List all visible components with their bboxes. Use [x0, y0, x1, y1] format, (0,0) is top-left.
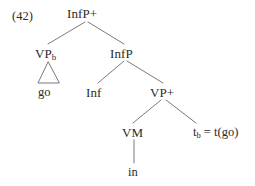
edge-vpplus-trace	[166, 100, 196, 123]
edge-infpplus-vpb	[48, 22, 85, 44]
edge-infp-vpplus	[127, 61, 163, 83]
trace-annotation: tb = t(go)	[193, 126, 238, 140]
example-number: (42)	[12, 10, 33, 23]
leaf-go: go	[38, 86, 51, 99]
edge-vpplus-vm	[133, 100, 161, 123]
node-infp-plus: InfP+	[67, 7, 97, 20]
node-vp-b-main: VP	[35, 46, 52, 61]
node-inf: Inf	[86, 86, 101, 99]
node-vp-b: VPb	[35, 47, 56, 62]
trace-equation-rest: = t(go)	[201, 125, 239, 139]
node-vm: VM	[122, 126, 143, 139]
vp-b-triangle	[38, 62, 59, 83]
node-infp: InfP	[110, 47, 133, 60]
node-vp-plus: VP+	[150, 86, 174, 99]
node-vp-b-subscript: b	[52, 52, 56, 62]
leaf-in: in	[128, 166, 138, 179]
figure-canvas: (42) InfP+ VPb InfP go Inf VP+ VM in tb …	[0, 0, 255, 186]
edge-infpplus-infp	[88, 22, 124, 44]
edge-infp-inf	[98, 61, 124, 83]
